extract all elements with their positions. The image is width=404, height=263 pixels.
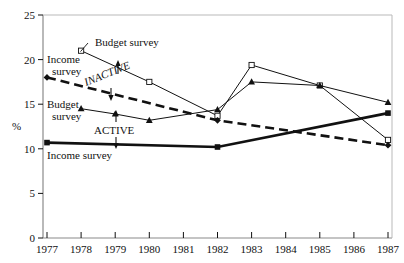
x-tick-label-1977: 1977 (36, 243, 59, 255)
annotation-label-budget-survey-top: Budget survey (95, 36, 159, 48)
x-tick-label-1986: 1986 (343, 243, 366, 255)
annotation-inactive: INACTIVE (81, 59, 131, 101)
x-tick-label-1984: 1984 (275, 243, 298, 255)
data-point (214, 106, 221, 112)
x-tick-label-1982: 1982 (207, 243, 229, 255)
annotation-budget-survey-top: Budget survey (95, 36, 159, 48)
chart-container: 25 20 15 10 5 0 % 1977 1978 1979 1980 19… (0, 0, 404, 263)
data-point (44, 140, 50, 146)
data-point (147, 79, 152, 84)
annotation-income-survey-upper: Income survey (47, 53, 82, 77)
data-point (249, 62, 254, 67)
x-tick-label-1981: 1981 (172, 243, 194, 255)
x-tick-label-1983: 1983 (241, 243, 264, 255)
data-point (215, 144, 221, 150)
annotation-label-income-survey-lower: Income survey (47, 149, 113, 161)
x-tick-label-1978: 1978 (70, 243, 93, 255)
y-tick-label-15: 15 (24, 98, 36, 110)
active-arrow-down-head (113, 143, 118, 149)
inactive-arrow-down-head (108, 95, 113, 101)
annotation-label-inactive: INACTIVE (81, 59, 131, 89)
annotation-label-income-survey-upper-2: survey (52, 65, 82, 77)
y-tick-label-5: 5 (30, 187, 36, 199)
x-tick-label-1979: 1979 (104, 243, 127, 255)
x-tick-label-1987: 1987 (377, 243, 400, 255)
leader-lines (81, 43, 89, 52)
x-tick-label-1985: 1985 (309, 243, 332, 255)
x-tick-label-1980: 1980 (138, 243, 161, 255)
data-point (248, 78, 255, 84)
x-tick-marks (47, 232, 388, 238)
annotation-income-survey-lower: Income survey (47, 149, 113, 161)
annotation-label-income-survey-upper-1: Income (47, 53, 80, 65)
data-point (385, 137, 390, 142)
leader-budget-top (81, 43, 89, 52)
y-tick-label-10: 10 (24, 143, 36, 155)
line-chart: 25 20 15 10 5 0 % 1977 1978 1979 1980 19… (0, 0, 404, 263)
annotation-label-active: ACTIVE (94, 124, 135, 136)
annotation-label-budget-survey-mid-2: survey (52, 110, 82, 122)
y-tick-label-0: 0 (30, 232, 36, 244)
y-axis-label: % (12, 120, 21, 132)
series-line (81, 82, 388, 120)
annotation-label-budget-survey-mid-1: Budget (47, 98, 79, 110)
annotation-budget-survey-mid: Budget survey (47, 98, 82, 122)
data-point (44, 74, 51, 81)
data-point (385, 110, 391, 116)
y-tick-label-20: 20 (24, 54, 36, 66)
y-tick-label-25: 25 (24, 9, 36, 21)
series-2 (78, 78, 392, 123)
y-tick-marks (38, 15, 43, 238)
